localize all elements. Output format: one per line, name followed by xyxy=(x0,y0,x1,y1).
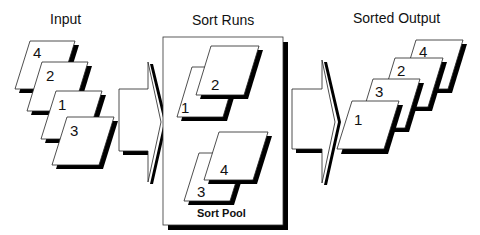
card-label: 1 xyxy=(181,99,189,116)
output-stack: 4 2 3 1 xyxy=(337,40,467,154)
sort-pool-label: Sort Pool xyxy=(197,207,246,219)
card-label: 2 xyxy=(397,62,405,79)
arrow-right-icon xyxy=(292,60,341,185)
card-label: 4 xyxy=(419,43,427,60)
input-stack: 4 2 1 3 xyxy=(15,41,118,169)
output-card-1: 1 xyxy=(337,101,403,154)
sort-pool-box: 1 2 3 4 xyxy=(163,37,288,230)
card-label: 3 xyxy=(375,83,383,100)
sort-diagram: 4 2 1 3 1 xyxy=(0,0,480,235)
card-label: 1 xyxy=(58,96,66,113)
card-label: 2 xyxy=(211,76,219,93)
card-label: 2 xyxy=(46,67,54,84)
card-label: 3 xyxy=(70,122,78,139)
card-label: 1 xyxy=(354,111,362,128)
card-label: 3 xyxy=(197,183,205,200)
arrow-right-icon xyxy=(119,62,167,184)
card-label: 4 xyxy=(220,161,228,178)
card-label: 4 xyxy=(33,44,41,61)
